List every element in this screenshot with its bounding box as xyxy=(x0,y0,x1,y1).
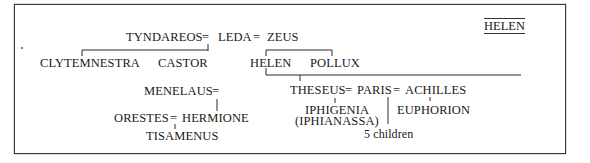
person-tisamenus: TISAMENUS xyxy=(146,129,218,143)
person-paris: PARIS xyxy=(357,83,392,97)
marriage-symbol: = xyxy=(393,83,400,97)
person-hermione: HERMIONE xyxy=(182,111,249,125)
person-clytemnestra: CLYTEMNESTRA xyxy=(40,56,140,70)
marriage-symbol: = xyxy=(253,30,260,44)
person-iphianassa-alias: (IPHIANASSA) xyxy=(295,114,377,128)
person-menelaus: MENELAUS xyxy=(144,84,213,98)
person-helen: HELEN xyxy=(250,56,291,70)
person-euphorion: EUPHORION xyxy=(397,103,470,117)
paris-helen-children: 5 children xyxy=(364,127,413,141)
marriage-symbol: = xyxy=(212,84,219,98)
marriage-symbol: = xyxy=(345,83,352,97)
person-pollux: POLLUX xyxy=(310,56,360,70)
person-zeus: ZEUS xyxy=(267,30,299,44)
person-achilles: ACHILLES xyxy=(405,83,466,97)
family-tree-lines xyxy=(0,0,590,163)
marriage-symbol: = xyxy=(170,111,177,125)
person-leda: LEDA xyxy=(218,30,252,44)
person-orestes: ORESTES xyxy=(114,111,169,125)
marriage-symbol: = xyxy=(202,30,209,44)
person-theseus: THESEUS xyxy=(290,83,346,97)
person-castor: CASTOR xyxy=(158,56,208,70)
person-tyndareos: TYNDAREOS xyxy=(126,30,203,44)
